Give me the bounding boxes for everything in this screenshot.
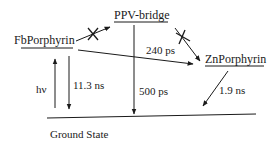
fb-to-zn-arrow xyxy=(78,50,193,64)
zn-lifetime-label: 1.9 ns xyxy=(219,85,245,96)
hv-label: hν xyxy=(36,84,46,95)
znporphyrin-label: ZnPorphyrin xyxy=(205,53,266,65)
ppv-bridge-label: PPV-bridge xyxy=(114,9,170,21)
ppv-lifetime-label: 500 ps xyxy=(139,86,168,97)
ppv-to-zn-arrow xyxy=(175,28,200,61)
fb-lifetime-label: 11.3 ns xyxy=(73,80,104,91)
fbporphyrin-label: FbPorphyrin xyxy=(14,34,75,46)
block-x-icon xyxy=(88,28,98,40)
ground-state-label: Ground State xyxy=(50,129,108,140)
ground-level-line xyxy=(47,114,256,118)
energy-transfer-label: 240 ps xyxy=(146,45,175,56)
